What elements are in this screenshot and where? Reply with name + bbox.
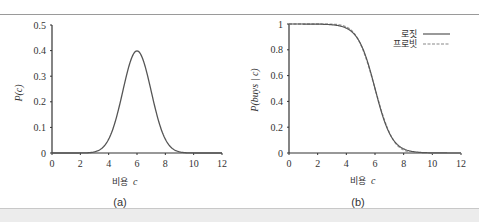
panel-b: 02468101200.20.40.60.81 P(buys | c) 비용 c… [249, 19, 466, 209]
b-y-tick-label: 0.2 [271, 122, 284, 133]
a-x-tick-label: 6 [135, 158, 140, 169]
a-y-tick-label: 0.5 [34, 20, 47, 31]
a-y-tick-label: 0.1 [34, 122, 47, 133]
caption-b: (b) [351, 196, 364, 208]
x-axis-label-b: 비용 [350, 176, 366, 186]
a-x-tick-label: 8 [163, 158, 168, 169]
a-y-tick-label: 0.4 [34, 45, 47, 56]
x-axis-label-a: 비용 [112, 177, 128, 187]
a-x-tick-label: 2 [78, 158, 83, 169]
gaussian-curve [52, 51, 222, 153]
b-x-tick-label: 10 [427, 158, 437, 169]
a-x-tick-label: 4 [106, 158, 111, 169]
b-x-tick-label: 6 [373, 158, 378, 169]
panel-a: 02468101200.10.20.30.40.5 P(c) 비용 c (a) [13, 20, 227, 209]
b-y-tick-label: 1 [278, 19, 283, 30]
axes-b: 02468101200.20.40.60.81 [271, 19, 467, 170]
b-x-tick-label: 0 [287, 158, 292, 169]
a-x-tick-label: 12 [217, 158, 227, 169]
a-y-tick-label: 0.2 [34, 96, 47, 107]
legend: 로짓 프로빗 [393, 29, 450, 49]
figure: 02468101200.10.20.30.40.5 P(c) 비용 c (a) … [0, 0, 479, 222]
b-x-tick-label: 8 [401, 158, 406, 169]
logit-curve [289, 24, 461, 153]
caption-a: (a) [113, 196, 126, 208]
b-y-tick-label: 0.6 [271, 70, 284, 81]
b-x-tick-label: 4 [344, 158, 349, 169]
legend-label-probit: 프로빗 [393, 39, 417, 49]
b-y-tick-label: 0.8 [271, 44, 284, 55]
b-y-tick-label: 0.4 [271, 96, 284, 107]
b-x-tick-label: 2 [315, 158, 320, 169]
a-y-tick-label: 0.3 [34, 71, 47, 82]
b-x-tick-label: 12 [456, 158, 466, 169]
legend-label-logit: 로짓 [401, 29, 417, 39]
axes-a: 02468101200.10.20.30.40.5 [34, 20, 228, 170]
x-axis-var-b: c [371, 175, 376, 186]
y-axis-label-b: P(buys | c) [249, 68, 261, 113]
a-x-tick-label: 10 [189, 158, 199, 169]
x-axis-var-a: c [133, 176, 138, 187]
y-axis-label-a: P(c) [13, 84, 25, 103]
a-x-tick-label: 0 [50, 158, 55, 169]
b-y-tick-label: 0 [278, 148, 283, 159]
a-y-tick-label: 0 [41, 148, 46, 159]
